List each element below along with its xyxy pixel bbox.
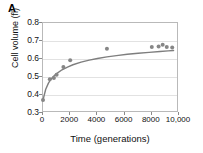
y-tick-label: 0.4: [13, 90, 39, 99]
plot-area: [42, 22, 178, 112]
data-point: [161, 43, 165, 47]
data-point: [170, 45, 174, 49]
x-axis-title: Time (generations): [42, 133, 178, 144]
data-point: [48, 77, 52, 81]
data-point: [105, 47, 109, 51]
data-point: [41, 98, 45, 102]
data-point: [68, 58, 72, 62]
y-tick-label: 0.5: [13, 72, 39, 81]
data-plot: [43, 23, 179, 113]
figure-panel: A Cell volume (fl) Time (generations) 0.…: [0, 0, 203, 153]
data-point: [150, 45, 154, 49]
data-point: [165, 45, 169, 49]
x-tick-label: 10,000: [158, 115, 198, 124]
data-point: [55, 73, 59, 77]
y-tick-label: 0.6: [13, 54, 39, 63]
data-point: [61, 65, 65, 69]
data-point: [52, 76, 56, 80]
y-tick-label: 0.7: [13, 36, 39, 45]
y-tick-label: 0.8: [13, 18, 39, 27]
fit-curve: [43, 51, 174, 101]
data-point: [157, 45, 161, 49]
